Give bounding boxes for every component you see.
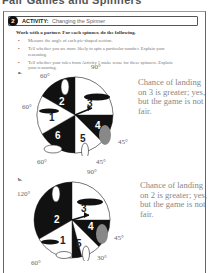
svg-text:5: 5 — [76, 238, 82, 249]
dog-icon — [61, 79, 69, 95]
zebra-icon — [99, 125, 111, 145]
activity-label: ACTIVITY: — [22, 17, 48, 25]
answer-b: Chance of landing on 2 is greater; yes, … — [140, 181, 212, 219]
skunk-icon — [39, 108, 59, 113]
angle-label: 60° — [37, 158, 47, 166]
angle-label: 90° — [87, 168, 97, 176]
svg-text:4: 4 — [88, 221, 94, 232]
activity-title-bar: 2 ACTIVITY: Changing the Spinner — [8, 16, 198, 26]
skunk-icon — [41, 239, 59, 244]
angle-label: 45° — [96, 158, 106, 166]
answer-a: Chance of landing on 3 is greater; yes, … — [138, 78, 210, 116]
angle-label: 45° — [114, 234, 124, 242]
zebra-icon — [96, 224, 108, 244]
angle-label: 60° — [22, 103, 32, 111]
spinner-a-diagram: 2 3 1 4 5 6 — [34, 74, 116, 156]
angle-label: 60° — [31, 259, 41, 267]
svg-text:6: 6 — [55, 130, 61, 141]
svg-text:1: 1 — [60, 235, 66, 246]
activity-title: Changing the Spinner — [52, 17, 105, 25]
cropped-page-heading: Fair Games and Spinners — [0, 0, 211, 10]
part-b-letter: b. — [18, 177, 22, 182]
svg-text:2: 2 — [54, 214, 60, 225]
instruction-item: Measure the angle of each pie-shaped sec… — [18, 38, 178, 44]
dog-icon — [52, 186, 60, 202]
angle-label: 60° — [40, 72, 50, 80]
angle-label: 120° — [17, 190, 30, 198]
part-a-letter: a. — [18, 70, 22, 75]
penguin-icon — [83, 246, 90, 261]
angle-label: 90° — [91, 63, 101, 71]
heading-text: Fair Games and Spinners — [2, 0, 142, 6]
activity-frame: 2 ACTIVITY: Changing the Spinner Work wi… — [3, 11, 206, 273]
angle-label: 30° — [97, 254, 107, 262]
svg-text:5: 5 — [80, 133, 86, 144]
angle-label: 45° — [118, 138, 128, 146]
orca-icon — [84, 94, 110, 101]
goat-icon — [56, 252, 72, 259]
penguin-icon — [82, 143, 89, 156]
svg-text:2: 2 — [59, 96, 65, 107]
svg-text:1: 1 — [49, 112, 55, 123]
spinner-b-diagram: 2 3 1 4 5 — [31, 179, 113, 261]
activity-number-badge: 2 — [8, 16, 18, 26]
goat-icon — [44, 145, 62, 153]
instruction-item: Tell whether you are more likely to spin… — [18, 46, 178, 57]
instructions-intro: Work with a partner. For each spinner, d… — [16, 30, 136, 35]
orca-icon — [77, 199, 103, 206]
